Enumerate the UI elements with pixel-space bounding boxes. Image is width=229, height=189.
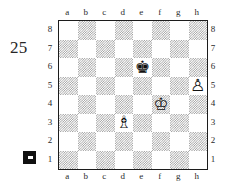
file-label-d: d bbox=[114, 171, 133, 181]
square-a2[interactable] bbox=[59, 132, 78, 151]
square-d2[interactable] bbox=[115, 132, 134, 151]
square-b8[interactable] bbox=[78, 21, 97, 40]
square-d4[interactable] bbox=[115, 95, 134, 114]
square-e5[interactable] bbox=[133, 77, 152, 96]
square-f1[interactable] bbox=[152, 151, 171, 170]
file-label-h: h bbox=[188, 7, 207, 17]
rank-label-2: 2 bbox=[208, 131, 218, 150]
rank-labels-left: 87654321 bbox=[45, 20, 56, 168]
rank-label-6: 6 bbox=[45, 57, 55, 76]
square-e1[interactable] bbox=[133, 151, 152, 170]
square-b2[interactable] bbox=[78, 132, 97, 151]
square-a5[interactable] bbox=[59, 77, 78, 96]
file-label-b: b bbox=[77, 7, 96, 17]
square-c7[interactable] bbox=[96, 40, 115, 59]
square-e7[interactable] bbox=[133, 40, 152, 59]
rank-label-6: 6 bbox=[208, 57, 218, 76]
square-a8[interactable] bbox=[59, 21, 78, 40]
square-e4[interactable] bbox=[133, 95, 152, 114]
square-f3[interactable] bbox=[152, 114, 171, 133]
white-king[interactable]: ♔ bbox=[152, 95, 171, 114]
square-a3[interactable] bbox=[59, 114, 78, 133]
square-a7[interactable] bbox=[59, 40, 78, 59]
square-d5[interactable] bbox=[115, 77, 134, 96]
square-b7[interactable] bbox=[78, 40, 97, 59]
square-d8[interactable] bbox=[115, 21, 134, 40]
rank-label-2: 2 bbox=[45, 131, 55, 150]
chess-board[interactable]: ♚♙♔♗ bbox=[58, 20, 208, 170]
square-f2[interactable] bbox=[152, 132, 171, 151]
rank-label-1: 1 bbox=[208, 150, 218, 169]
square-f7[interactable] bbox=[152, 40, 171, 59]
file-label-e: e bbox=[132, 171, 151, 181]
rank-label-3: 3 bbox=[45, 113, 55, 132]
file-label-d: d bbox=[114, 7, 133, 17]
file-label-g: g bbox=[169, 171, 188, 181]
square-a6[interactable] bbox=[59, 58, 78, 77]
square-a4[interactable] bbox=[59, 95, 78, 114]
rank-label-5: 5 bbox=[208, 76, 218, 95]
square-d7[interactable] bbox=[115, 40, 134, 59]
diagram-number: 25 bbox=[10, 38, 50, 58]
black-king[interactable]: ♚ bbox=[133, 58, 152, 77]
square-g8[interactable] bbox=[170, 21, 189, 40]
square-e2[interactable] bbox=[133, 132, 152, 151]
file-label-e: e bbox=[132, 7, 151, 17]
square-f8[interactable] bbox=[152, 21, 171, 40]
square-c2[interactable] bbox=[96, 132, 115, 151]
square-c4[interactable] bbox=[96, 95, 115, 114]
board-grid: ♚♙♔♗ bbox=[59, 21, 207, 169]
square-a1[interactable] bbox=[59, 151, 78, 170]
square-h2[interactable] bbox=[189, 132, 208, 151]
square-b6[interactable] bbox=[78, 58, 97, 77]
square-e3[interactable] bbox=[133, 114, 152, 133]
file-label-g: g bbox=[169, 7, 188, 17]
file-label-a: a bbox=[58, 171, 77, 181]
square-g5[interactable] bbox=[170, 77, 189, 96]
file-label-a: a bbox=[58, 7, 77, 17]
file-label-f: f bbox=[151, 171, 170, 181]
square-e8[interactable] bbox=[133, 21, 152, 40]
square-h7[interactable] bbox=[189, 40, 208, 59]
square-c6[interactable] bbox=[96, 58, 115, 77]
file-label-c: c bbox=[95, 7, 114, 17]
square-h6[interactable] bbox=[189, 58, 208, 77]
rank-label-7: 7 bbox=[208, 39, 218, 58]
square-d6[interactable] bbox=[115, 58, 134, 77]
rank-label-7: 7 bbox=[45, 39, 55, 58]
square-b3[interactable] bbox=[78, 114, 97, 133]
square-h1[interactable] bbox=[189, 151, 208, 170]
square-g2[interactable] bbox=[170, 132, 189, 151]
square-c1[interactable] bbox=[96, 151, 115, 170]
square-b5[interactable] bbox=[78, 77, 97, 96]
file-label-b: b bbox=[77, 171, 96, 181]
rank-label-4: 4 bbox=[45, 94, 55, 113]
rank-labels-right: 87654321 bbox=[208, 20, 219, 168]
square-g4[interactable] bbox=[170, 95, 189, 114]
rank-label-1: 1 bbox=[45, 150, 55, 169]
square-h4[interactable] bbox=[189, 95, 208, 114]
square-h8[interactable] bbox=[189, 21, 208, 40]
square-b4[interactable] bbox=[78, 95, 97, 114]
white-pawn[interactable]: ♙ bbox=[189, 77, 208, 96]
square-d1[interactable] bbox=[115, 151, 134, 170]
square-c3[interactable] bbox=[96, 114, 115, 133]
square-g1[interactable] bbox=[170, 151, 189, 170]
square-c5[interactable] bbox=[96, 77, 115, 96]
file-labels-bottom: abcdefgh bbox=[58, 171, 206, 182]
square-f6[interactable] bbox=[152, 58, 171, 77]
square-f5[interactable] bbox=[152, 77, 171, 96]
square-b1[interactable] bbox=[78, 151, 97, 170]
square-g3[interactable] bbox=[170, 114, 189, 133]
file-label-h: h bbox=[188, 171, 207, 181]
white-bishop[interactable]: ♗ bbox=[115, 114, 134, 133]
square-g7[interactable] bbox=[170, 40, 189, 59]
rank-label-4: 4 bbox=[208, 94, 218, 113]
side-to-move-marker bbox=[23, 151, 36, 164]
square-c8[interactable] bbox=[96, 21, 115, 40]
rank-label-8: 8 bbox=[45, 20, 55, 39]
square-g6[interactable] bbox=[170, 58, 189, 77]
rank-label-8: 8 bbox=[208, 20, 218, 39]
square-h3[interactable] bbox=[189, 114, 208, 133]
chess-diagram: 25 abcdefgh abcdefgh 87654321 87654321 ♚… bbox=[0, 0, 229, 189]
